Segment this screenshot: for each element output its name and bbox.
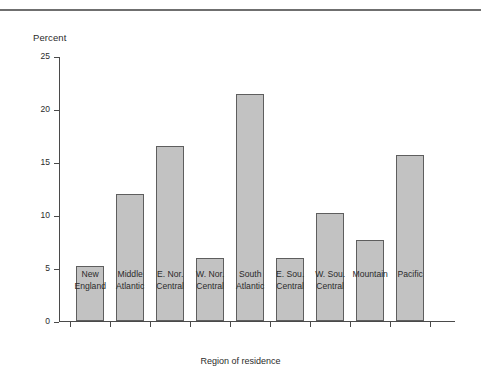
y-axis-line: [59, 57, 60, 322]
y-axis-tick-label: 15: [41, 157, 50, 167]
y-axis-tick-label: 5: [45, 263, 50, 273]
x-axis-label: Region of residence: [0, 356, 481, 366]
x-axis-category-label: Pacific: [390, 269, 430, 281]
x-axis-category-label: E. Nor. Central: [150, 269, 190, 292]
y-axis-tick: 5: [54, 269, 59, 270]
bar: [156, 146, 184, 321]
x-axis-category-label: W. Nor. Central: [190, 269, 230, 292]
y-axis-tick-label: 25: [41, 51, 50, 61]
x-axis-category-label: E. Sou. Central: [270, 269, 310, 292]
x-axis-tick: [270, 322, 271, 327]
x-axis-tick: [310, 322, 311, 327]
x-axis-category-label: New England: [70, 269, 110, 292]
y-axis-tick-label: 0: [45, 316, 50, 326]
y-axis-tick: 20: [54, 110, 59, 111]
x-axis-tick: [430, 322, 431, 327]
x-axis-tick: [390, 322, 391, 327]
y-axis-tick: 15: [54, 163, 59, 164]
x-axis-tick: [150, 322, 151, 327]
x-axis-tick: [190, 322, 191, 327]
x-axis-line: [59, 321, 455, 322]
y-axis-tick: 10: [54, 216, 59, 217]
bar: [356, 240, 384, 321]
bar: [396, 155, 424, 321]
y-axis-tick: 0: [54, 322, 59, 323]
y-axis-tick: 25: [54, 57, 59, 58]
bar: [316, 213, 344, 321]
y-axis-tick-label: 20: [41, 104, 50, 114]
x-axis-category-label: W. Sou. Central: [310, 269, 350, 292]
x-axis-category-label: Mountain: [350, 269, 390, 281]
x-axis-tick: [350, 322, 351, 327]
x-axis-tick: [230, 322, 231, 327]
x-axis-tick: [70, 322, 71, 327]
y-axis-label: Percent: [33, 32, 66, 43]
bar-chart-figure: Percent 0510152025 New EnglandMiddle Atl…: [0, 0, 481, 382]
x-axis-category-label: Middle Atlantic: [110, 269, 150, 292]
bar: [116, 194, 144, 321]
y-axis-tick-label: 10: [41, 210, 50, 220]
x-axis-tick: [110, 322, 111, 327]
x-axis-category-label: South Atlantic: [230, 269, 270, 292]
